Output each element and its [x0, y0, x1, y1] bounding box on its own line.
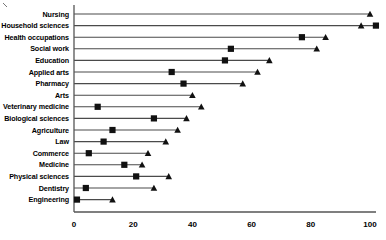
- category-label: Biological sciences: [4, 114, 69, 123]
- square-marker: [101, 139, 107, 145]
- square-marker: [373, 23, 379, 29]
- category-label: Nursing: [43, 10, 69, 19]
- category-label: Commerce: [33, 149, 69, 158]
- category-label: Arts: [55, 91, 69, 100]
- square-marker: [228, 46, 234, 52]
- category-label: Law: [55, 137, 69, 146]
- corner-tick-mark: [3, 3, 7, 7]
- range-lines: [74, 14, 376, 200]
- square-marker: [299, 34, 305, 40]
- dumbbell-chart: NursingHousehold sciencesHealth occupati…: [0, 0, 386, 240]
- square-marker: [74, 197, 80, 203]
- x-tick-label: 0: [72, 220, 77, 229]
- x-tick-label: 100: [363, 220, 377, 229]
- category-label: Social work: [30, 44, 69, 53]
- square-marker: [109, 127, 115, 133]
- category-label: Household sciences: [1, 21, 69, 30]
- x-tick-label: 60: [247, 220, 256, 229]
- category-label: Agriculture: [32, 126, 69, 135]
- square-marker: [83, 185, 89, 191]
- square-marker: [222, 57, 228, 63]
- x-axis-tick-labels: 020406080100: [72, 220, 377, 229]
- x-axis: [74, 5, 376, 212]
- square-marker: [169, 69, 175, 75]
- category-label: Medicine: [39, 160, 69, 169]
- square-marker: [133, 173, 139, 179]
- square-marker: [180, 81, 186, 87]
- category-label: Applied arts: [29, 68, 69, 77]
- square-marker: [121, 162, 127, 168]
- chart-canvas: NursingHousehold sciencesHealth occupati…: [0, 0, 386, 240]
- category-label: Health occupations: [5, 33, 70, 42]
- x-tick-label: 80: [306, 220, 315, 229]
- category-label: Education: [35, 56, 69, 65]
- category-label: Dentistry: [39, 184, 69, 193]
- x-tick-label: 40: [188, 220, 197, 229]
- category-label: Physical sciences: [9, 172, 69, 181]
- square-marker: [151, 115, 157, 121]
- x-tick-label: 20: [129, 220, 138, 229]
- category-label: Veterinary medicine: [3, 102, 69, 111]
- category-axis-labels: NursingHousehold sciencesHealth occupati…: [1, 10, 69, 205]
- square-marker: [86, 150, 92, 156]
- square-marker: [95, 104, 101, 110]
- category-label: Engineering: [29, 195, 69, 204]
- category-label: Pharmacy: [35, 79, 69, 88]
